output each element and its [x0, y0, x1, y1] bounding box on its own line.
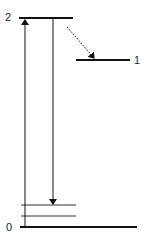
level-2-label: 2 [5, 12, 11, 23]
level-0-label: 0 [6, 222, 12, 233]
energy-diagram [0, 0, 148, 239]
level-1-label: 1 [134, 55, 140, 66]
relaxation-arrow [67, 27, 94, 58]
